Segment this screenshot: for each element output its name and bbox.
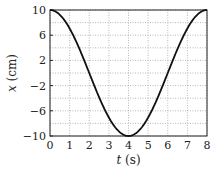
- y-axis-label: x (cm): [5, 54, 19, 92]
- line-chart: 012345678−10−6−22610 t (s) x (cm): [0, 0, 211, 172]
- x-tick-label: 8: [204, 139, 211, 152]
- y-tick-label: −10: [23, 130, 46, 143]
- x-axis-label: t (s): [116, 153, 140, 167]
- y-tick-label: 6: [39, 29, 46, 42]
- x-tick-label: 7: [184, 139, 191, 152]
- y-tick-label: −6: [30, 105, 46, 118]
- x-tick-label: 6: [164, 139, 171, 152]
- x-tick-label: 1: [66, 139, 73, 152]
- x-tick-label: 2: [86, 139, 93, 152]
- y-tick-label: −2: [30, 80, 46, 93]
- y-tick-label: 10: [32, 4, 46, 17]
- y-tick-label: 2: [39, 54, 46, 67]
- x-tick-label: 3: [105, 139, 112, 152]
- x-tick-label: 4: [125, 139, 132, 152]
- x-tick-label: 5: [145, 139, 152, 152]
- x-tick-label: 0: [47, 139, 54, 152]
- grid: [50, 10, 207, 136]
